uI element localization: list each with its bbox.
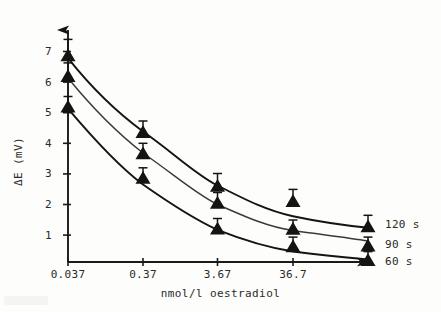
series-label-90s: 90 s xyxy=(385,238,413,251)
y-axis-title: ΔE (mV) xyxy=(12,122,25,202)
scan-artifact xyxy=(4,296,48,305)
y-tick-label-6: 6 xyxy=(30,76,52,89)
plot-area xyxy=(0,0,441,312)
y-tick-label-4: 4 xyxy=(30,137,52,150)
series-label-60s: 60 s xyxy=(385,255,413,268)
x-tick-label-3670: 36.7 xyxy=(253,268,333,281)
y-tick-label-1: 1 xyxy=(30,229,52,242)
y-tick-label-7: 7 xyxy=(30,45,52,58)
series-curve-90s xyxy=(68,78,368,241)
x-tick-label-0037: 0.037 xyxy=(28,268,108,281)
y-tick-label-5: 5 xyxy=(30,106,52,119)
series-label-120s: 120 s xyxy=(385,218,420,231)
y-tick-label-3: 3 xyxy=(30,167,52,180)
chart-figure: 7 6 5 4 3 2 1 0.037 0.37 3.67 36.7 nmol/… xyxy=(0,0,441,312)
x-tick-label-367: 3.67 xyxy=(178,268,258,281)
y-tick-label-2: 2 xyxy=(30,198,52,211)
x-axis-title: nmol/l oestradiol xyxy=(0,287,441,300)
x-tick-label-037: 0.37 xyxy=(103,268,183,281)
